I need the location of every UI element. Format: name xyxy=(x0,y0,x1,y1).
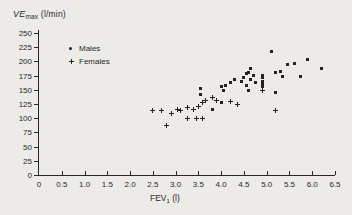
legend-females-label: Females xyxy=(79,57,110,66)
x-tick xyxy=(244,171,245,175)
scatter-point-male xyxy=(224,84,227,87)
x-tick xyxy=(62,171,63,175)
scatter-point-female xyxy=(164,123,169,128)
scatter-point-female xyxy=(228,99,233,104)
male-marker-icon xyxy=(69,47,79,50)
x-tick xyxy=(176,171,177,175)
chart-title: VEmax (l/min) xyxy=(13,9,66,20)
y-tick-label: 125 xyxy=(5,100,32,109)
y-tick xyxy=(34,33,39,34)
y-tick xyxy=(34,147,39,148)
scatter-point-male xyxy=(220,101,223,104)
y-tick-label: 150 xyxy=(5,86,32,95)
scatter-point-female xyxy=(260,88,265,93)
x-axis-unit: (l) xyxy=(170,193,180,203)
scatter-point-male xyxy=(270,50,273,53)
scatter-point-female xyxy=(150,108,155,113)
x-tick xyxy=(221,171,222,175)
scatter-point-male xyxy=(229,81,232,84)
x-tick xyxy=(312,171,313,175)
scatter-point-male xyxy=(293,62,296,65)
x-tick xyxy=(335,171,336,175)
ve-max-subscript: max xyxy=(25,13,38,20)
y-tick xyxy=(34,118,39,119)
ve-symbol: VE xyxy=(13,9,25,19)
scatter-point-male xyxy=(249,67,252,70)
scatter-point-female xyxy=(185,116,190,121)
x-tick-label: 3.0 xyxy=(165,180,187,189)
scatter-point-male xyxy=(274,91,277,94)
x-tick xyxy=(107,171,108,175)
y-tick-label: 25 xyxy=(5,157,32,166)
scatter-point-female xyxy=(200,116,205,121)
scatter-plot-figure: VEmax (l/min) 02550751001251501752002252… xyxy=(0,0,352,215)
legend-males-label: Males xyxy=(79,44,100,53)
scatter-point-female xyxy=(178,108,183,113)
y-tick-label: 175 xyxy=(5,72,32,81)
scatter-point-female xyxy=(196,104,201,109)
x-tick xyxy=(153,171,154,175)
scatter-point-female xyxy=(273,108,278,113)
x-tick-label: 2.5 xyxy=(142,180,164,189)
scatter-point-female xyxy=(235,102,240,107)
y-tick xyxy=(34,132,39,133)
y-tick-label: 225 xyxy=(5,43,32,52)
y-tick xyxy=(34,161,39,162)
x-tick-label: 5.0 xyxy=(256,180,278,189)
x-tick-label: 0.5 xyxy=(51,180,73,189)
legend-item-males: Males xyxy=(69,42,110,55)
scatter-point-male xyxy=(254,81,257,84)
x-tick xyxy=(289,171,290,175)
y-tick xyxy=(34,104,39,105)
scatter-point-female xyxy=(194,116,199,121)
x-tick-label: 3.5 xyxy=(187,180,209,189)
y-tick-label: 75 xyxy=(5,128,32,137)
scatter-point-female xyxy=(169,111,174,116)
y-tick xyxy=(34,175,39,176)
x-tick xyxy=(198,171,199,175)
scatter-point-male xyxy=(199,87,202,90)
scatter-point-male xyxy=(286,63,289,66)
scatter-point-female xyxy=(185,105,190,110)
scatter-point-male xyxy=(222,89,225,92)
x-tick-label: 1.5 xyxy=(96,180,118,189)
x-tick-label: 0 xyxy=(28,180,50,189)
x-tick-label: 6.0 xyxy=(301,180,323,189)
female-marker-icon xyxy=(69,59,79,64)
x-tick xyxy=(130,171,131,175)
scatter-point-male xyxy=(249,78,252,81)
scatter-point-male xyxy=(279,70,282,73)
x-tick-label: 4.0 xyxy=(210,180,232,189)
y-tick xyxy=(34,90,39,91)
x-tick-label: 4.5 xyxy=(233,180,255,189)
y-tick-label: 100 xyxy=(5,114,32,123)
y-tick-label: 250 xyxy=(5,29,32,38)
scatter-point-male xyxy=(211,108,214,111)
x-axis-label: FEV1 (l) xyxy=(150,193,230,204)
scatter-point-male xyxy=(240,80,243,83)
y-tick-label: 50 xyxy=(5,143,32,152)
y-tick-label: 200 xyxy=(5,57,32,66)
scatter-point-male xyxy=(245,84,248,87)
x-tick-label: 2.0 xyxy=(119,180,141,189)
scatter-point-male xyxy=(233,78,236,81)
scatter-point-female xyxy=(203,98,208,103)
scatter-point-male xyxy=(252,74,255,77)
x-tick xyxy=(267,171,268,175)
scatter-point-male xyxy=(306,58,309,61)
scatter-point-male xyxy=(220,85,223,88)
x-tick-label: 1.0 xyxy=(74,180,96,189)
x-tick xyxy=(85,171,86,175)
y-unit-label: (l/min) xyxy=(38,9,66,19)
scatter-point-male xyxy=(299,75,302,78)
scatter-point-male xyxy=(247,71,250,74)
y-tick xyxy=(34,61,39,62)
y-tick xyxy=(34,47,39,48)
y-tick xyxy=(34,76,39,77)
x-tick-label: 5.5 xyxy=(278,180,300,189)
y-tick-label: 0 xyxy=(5,171,32,180)
legend: Males Females xyxy=(69,42,110,68)
scatter-point-female xyxy=(159,108,164,113)
scatter-point-male xyxy=(199,93,202,96)
scatter-point-female xyxy=(214,98,219,103)
